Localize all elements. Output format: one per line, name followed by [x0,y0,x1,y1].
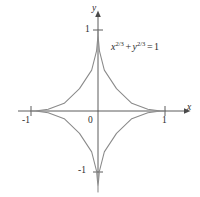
equation-equals-sign: = [145,41,154,52]
x-tick-label-1: 1 [162,116,167,126]
y-axis-label: y [92,4,96,14]
x-axis-label: x [187,103,191,113]
x-tick-label-neg1: -1 [22,116,30,126]
equation-plus-sign: + [124,41,133,52]
y-tick-label-1: 1 [85,25,90,35]
plot-canvas [0,0,200,197]
curve-equation-annotation: x2/3+y2/3=1 [111,41,159,52]
equation-exponent-x: 2/3 [115,40,123,47]
y-tick-label-neg1: -1 [78,166,86,176]
equation-right-hand-side: 1 [154,41,159,52]
origin-label: 0 [88,116,93,126]
astroid-figure: y x 1 -1 -1 1 0 x2/3+y2/3=1 [0,0,200,197]
